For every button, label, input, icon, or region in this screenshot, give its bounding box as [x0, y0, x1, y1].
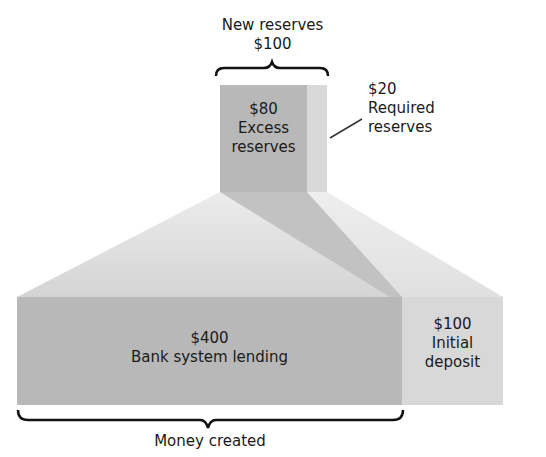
initial-deposit-line2: deposit: [402, 353, 503, 372]
required-reserves-label: $20 Required reserves: [368, 80, 435, 137]
required-reserves-block: [307, 85, 327, 192]
new-reserves-value: $100: [190, 35, 355, 54]
excess-reserves-value: $80: [220, 100, 307, 119]
bottom-brace: [18, 410, 403, 428]
money-multiplier-diagram: [0, 0, 546, 457]
excess-reserves-line2: reserves: [220, 138, 307, 157]
required-reserves-value: $20: [368, 80, 435, 99]
required-reserves-leader: [330, 119, 362, 138]
excess-reserves-line1: Excess: [220, 119, 307, 138]
money-created-text: Money created: [110, 432, 310, 451]
required-reserves-line2: reserves: [368, 118, 435, 137]
bank-lending-value: $400: [17, 329, 402, 348]
new-reserves-title: New reserves: [190, 16, 355, 35]
initial-deposit-value: $100: [402, 315, 503, 334]
bank-lending-label: $400 Bank system lending: [17, 329, 402, 367]
excess-reserves-label: $80 Excess reserves: [220, 100, 307, 157]
top-brace: [216, 62, 328, 76]
initial-deposit-line1: Initial: [402, 334, 503, 353]
initial-deposit-label: $100 Initial deposit: [402, 315, 503, 372]
new-reserves-label: New reserves $100: [190, 16, 355, 54]
money-created-label: Money created: [110, 432, 310, 451]
required-reserves-line1: Required: [368, 99, 435, 118]
bank-lending-text: Bank system lending: [17, 348, 402, 367]
